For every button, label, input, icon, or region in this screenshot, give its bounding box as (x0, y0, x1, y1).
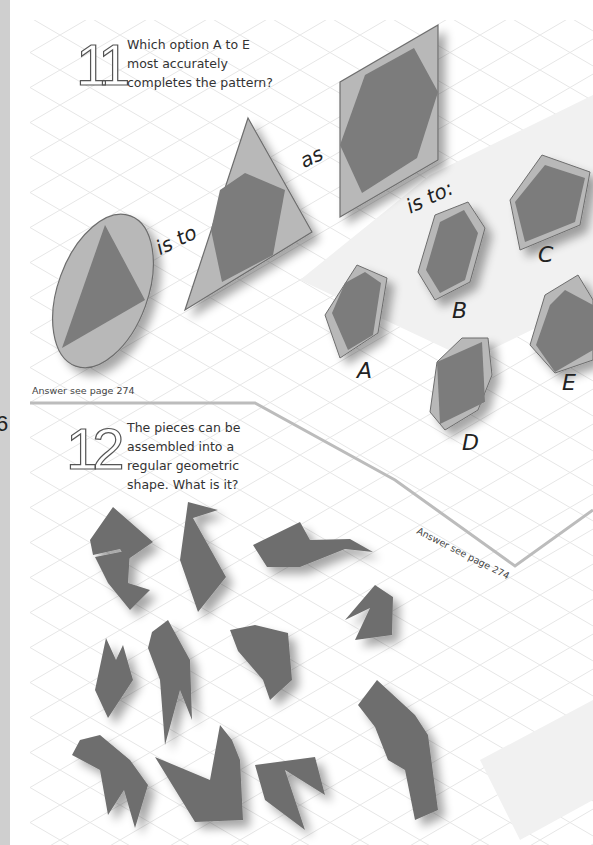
puzzle-11-question: Which option A to E most accurately comp… (127, 35, 273, 92)
option-label-a[interactable]: A (357, 358, 372, 383)
option-label-d[interactable]: D (462, 430, 479, 455)
puzzle-number-12: 12 (66, 420, 119, 478)
option-label-b[interactable]: B (452, 298, 467, 323)
puzzle-number-11: 11 (76, 36, 124, 94)
puzzle-11-answer-ref: Answer see page 274 (32, 385, 135, 396)
puzzle-12-question: The pieces can be assembled into a regul… (127, 418, 240, 494)
option-label-e[interactable]: E (562, 370, 576, 395)
option-label-c[interactable]: C (538, 242, 553, 267)
